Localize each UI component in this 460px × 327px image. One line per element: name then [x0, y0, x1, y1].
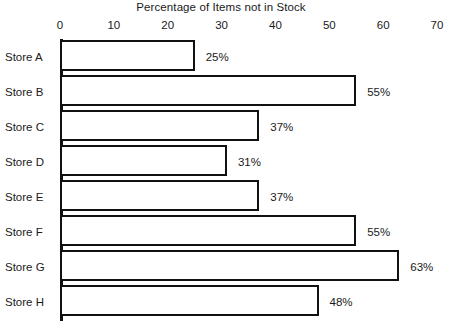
bar-value-label: 48% — [330, 296, 353, 308]
bar-value-label: 25% — [206, 51, 229, 63]
bar — [60, 215, 356, 246]
chart-title-text: Percentage of Items not in Stock — [136, 1, 305, 13]
bar — [60, 250, 399, 281]
bar-row: Store E37% — [0, 179, 460, 214]
bar-row: Store H48% — [0, 284, 460, 319]
plot-area: Store A25%Store B55%Store C37%Store D31%… — [0, 39, 460, 324]
bar-value-label: 55% — [367, 226, 390, 238]
category-label: Store H — [5, 296, 44, 308]
category-label: Store F — [5, 226, 43, 238]
bar — [60, 75, 356, 106]
bar-value-label: 55% — [367, 86, 390, 98]
bar-value-label: 37% — [270, 121, 293, 133]
x-tick-label: 20 — [161, 19, 174, 31]
bar-row: Store C37% — [0, 109, 460, 144]
x-tick-label: 40 — [269, 19, 282, 31]
x-tick-label: 10 — [107, 19, 120, 31]
x-tick-label: 50 — [323, 19, 336, 31]
bar-row: Store F55% — [0, 214, 460, 249]
x-tick-label: 60 — [377, 19, 390, 31]
x-tick-label: 30 — [215, 19, 228, 31]
bar-row: Store A25% — [0, 39, 460, 74]
category-label: Store C — [5, 121, 44, 133]
category-label: Store B — [5, 86, 43, 98]
bar — [60, 40, 195, 71]
bar-row: Store B55% — [0, 74, 460, 109]
category-label: Store D — [5, 156, 44, 168]
bar — [60, 145, 227, 176]
category-label: Store E — [5, 191, 43, 203]
bar — [60, 110, 259, 141]
bar — [60, 180, 259, 211]
bar — [60, 285, 319, 316]
bar-row: Store G63% — [0, 249, 460, 284]
x-axis-tick-labels: 010203040506070 — [0, 19, 460, 35]
bar-value-label: 63% — [410, 261, 433, 273]
bar-value-label: 31% — [238, 156, 261, 168]
category-label: Store A — [5, 51, 43, 63]
bar-row: Store D31% — [0, 144, 460, 179]
x-tick-label: 70 — [431, 19, 444, 31]
category-label: Store G — [5, 261, 45, 273]
chart-title: Percentage of Items not in Stock — [0, 1, 460, 13]
bar-value-label: 37% — [270, 191, 293, 203]
x-tick-label: 0 — [57, 19, 63, 31]
bar-chart: Percentage of Items not in Stock 0102030… — [0, 0, 460, 327]
